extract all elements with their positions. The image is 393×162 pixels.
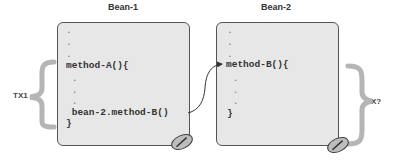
bean-1-proxy-icon (169, 131, 194, 152)
tx-unknown-brace (348, 66, 372, 144)
diagram-graphics (0, 0, 393, 162)
bean-2-proxy-icon (325, 134, 350, 155)
tx1-brace (30, 62, 54, 127)
call-arrow (188, 64, 222, 113)
